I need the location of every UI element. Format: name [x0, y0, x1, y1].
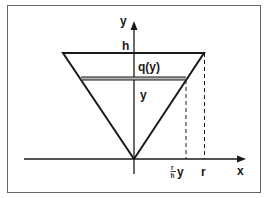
x-axis-arrow-icon: [237, 156, 246, 163]
q-label: q(y): [138, 60, 160, 74]
r-label: r: [201, 165, 206, 179]
y-level-label: y: [140, 88, 147, 102]
fraction-numerator: r: [171, 164, 174, 171]
diagram-svg: y x h q(y) y r h y r: [0, 0, 267, 198]
fraction-suffix: y: [177, 165, 184, 179]
y-axis-arrow-icon: [131, 21, 138, 30]
fraction-denominator: h: [171, 172, 175, 179]
h-label: h: [122, 39, 129, 53]
x-axis-label: x: [237, 164, 244, 178]
y-axis-label: y: [120, 14, 127, 28]
cone-diagram: y x h q(y) y r h y r: [0, 0, 267, 198]
